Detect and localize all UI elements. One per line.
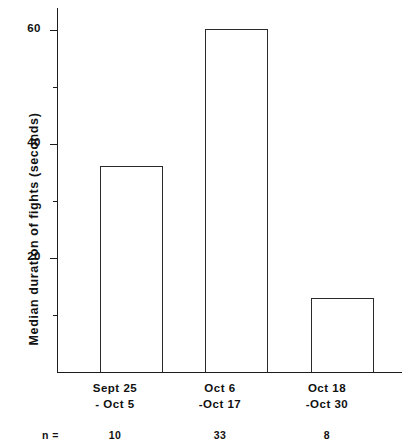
y-tick-60: 60: [50, 30, 57, 31]
plot-area: 20 40 60: [57, 8, 402, 373]
y-tick-minor-50: [53, 87, 58, 88]
x-category-label-3-line1: Oct 18: [308, 382, 346, 394]
x-category-label-2-line1: Oct 6: [204, 382, 235, 394]
x-axis-line: [57, 372, 402, 374]
sample-size-value-3: 8: [262, 429, 392, 441]
y-tick-minor-30: [53, 201, 58, 202]
x-category-label-3-line2: -Oct 30: [262, 396, 392, 412]
bar-chart-figure: Median duration of fights (seconds) 20 4…: [0, 0, 407, 447]
bar-sept25-oct5: [100, 166, 163, 371]
y-tick-20: 20: [50, 258, 57, 259]
y-tick-40: 40: [50, 144, 57, 145]
y-tick-label-40: 40: [27, 136, 41, 148]
y-tick-label-60: 60: [27, 22, 41, 34]
y-tick-minor-10: [53, 315, 58, 316]
y-axis-line: [57, 8, 58, 373]
x-category-label-1-line1: Sept 25: [93, 382, 137, 394]
x-category-label-3: Oct 18 -Oct 30: [262, 380, 392, 412]
bar-oct6-oct17: [205, 29, 268, 371]
bar-oct18-oct30: [311, 298, 374, 372]
y-axis-title: Median duration of fights (seconds): [27, 79, 41, 379]
sample-size-row: n = 10 33 8: [0, 429, 407, 445]
y-tick-label-20: 20: [27, 250, 41, 262]
